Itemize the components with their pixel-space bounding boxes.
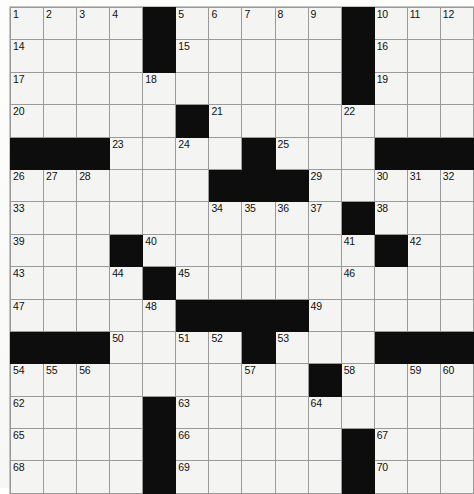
crossword-cell[interactable] bbox=[77, 299, 110, 331]
crossword-cell[interactable] bbox=[242, 267, 275, 299]
crossword-cell[interactable] bbox=[110, 396, 143, 428]
crossword-cell[interactable] bbox=[242, 396, 275, 428]
crossword-cell[interactable] bbox=[308, 72, 341, 104]
crossword-cell[interactable] bbox=[44, 72, 77, 104]
crossword-cell[interactable] bbox=[110, 461, 143, 493]
crossword-cell[interactable] bbox=[341, 137, 374, 169]
crossword-cell[interactable] bbox=[44, 429, 77, 461]
crossword-cell[interactable] bbox=[308, 234, 341, 266]
crossword-cell[interactable] bbox=[440, 299, 473, 331]
crossword-cell[interactable] bbox=[44, 202, 77, 234]
crossword-cell[interactable] bbox=[341, 299, 374, 331]
crossword-cell[interactable]: 52 bbox=[209, 331, 242, 363]
crossword-cell[interactable]: 48 bbox=[143, 299, 176, 331]
crossword-cell[interactable] bbox=[407, 202, 440, 234]
crossword-cell[interactable]: 9 bbox=[308, 8, 341, 40]
crossword-cell[interactable] bbox=[308, 267, 341, 299]
crossword-cell[interactable] bbox=[77, 105, 110, 137]
crossword-cell[interactable]: 37 bbox=[308, 202, 341, 234]
crossword-cell[interactable]: 50 bbox=[110, 331, 143, 363]
crossword-cell[interactable] bbox=[275, 364, 308, 396]
crossword-cell[interactable] bbox=[209, 461, 242, 493]
crossword-cell[interactable] bbox=[275, 461, 308, 493]
crossword-cell[interactable]: 27 bbox=[44, 169, 77, 201]
crossword-cell[interactable]: 65 bbox=[11, 429, 44, 461]
crossword-cell[interactable]: 30 bbox=[374, 169, 407, 201]
crossword-cell[interactable] bbox=[143, 202, 176, 234]
crossword-cell[interactable] bbox=[341, 331, 374, 363]
crossword-cell[interactable] bbox=[275, 105, 308, 137]
crossword-cell[interactable] bbox=[242, 234, 275, 266]
crossword-cell[interactable] bbox=[209, 234, 242, 266]
crossword-cell[interactable] bbox=[176, 234, 209, 266]
crossword-cell[interactable] bbox=[275, 396, 308, 428]
crossword-cell[interactable] bbox=[374, 299, 407, 331]
crossword-cell[interactable]: 31 bbox=[407, 169, 440, 201]
crossword-cell[interactable]: 14 bbox=[11, 40, 44, 72]
crossword-cell[interactable]: 58 bbox=[341, 364, 374, 396]
crossword-cell[interactable]: 67 bbox=[374, 429, 407, 461]
crossword-cell[interactable] bbox=[143, 137, 176, 169]
crossword-cell[interactable] bbox=[44, 299, 77, 331]
crossword-cell[interactable]: 3 bbox=[77, 8, 110, 40]
crossword-cell[interactable]: 23 bbox=[110, 137, 143, 169]
crossword-cell[interactable] bbox=[44, 267, 77, 299]
crossword-cell[interactable] bbox=[143, 105, 176, 137]
crossword-cell[interactable] bbox=[440, 396, 473, 428]
crossword-cell[interactable]: 2 bbox=[44, 8, 77, 40]
crossword-cell[interactable] bbox=[440, 40, 473, 72]
crossword-cell[interactable]: 62 bbox=[11, 396, 44, 428]
crossword-cell[interactable] bbox=[44, 234, 77, 266]
crossword-cell[interactable]: 5 bbox=[176, 8, 209, 40]
crossword-cell[interactable]: 36 bbox=[275, 202, 308, 234]
crossword-cell[interactable]: 7 bbox=[242, 8, 275, 40]
crossword-cell[interactable] bbox=[77, 40, 110, 72]
crossword-cell[interactable]: 41 bbox=[341, 234, 374, 266]
crossword-cell[interactable]: 17 bbox=[11, 72, 44, 104]
crossword-cell[interactable]: 29 bbox=[308, 169, 341, 201]
crossword-cell[interactable]: 1 bbox=[11, 8, 44, 40]
crossword-cell[interactable] bbox=[209, 137, 242, 169]
crossword-cell[interactable] bbox=[209, 40, 242, 72]
crossword-grid[interactable]: 1234567891011121415161718192021222324252… bbox=[10, 7, 474, 494]
crossword-cell[interactable]: 40 bbox=[143, 234, 176, 266]
crossword-cell[interactable]: 53 bbox=[275, 331, 308, 363]
crossword-cell[interactable]: 63 bbox=[176, 396, 209, 428]
crossword-cell[interactable]: 38 bbox=[374, 202, 407, 234]
crossword-cell[interactable] bbox=[77, 267, 110, 299]
crossword-cell[interactable] bbox=[440, 105, 473, 137]
crossword-cell[interactable]: 60 bbox=[440, 364, 473, 396]
crossword-cell[interactable]: 12 bbox=[440, 8, 473, 40]
crossword-cell[interactable] bbox=[110, 105, 143, 137]
crossword-cell[interactable] bbox=[176, 364, 209, 396]
crossword-cell[interactable] bbox=[44, 40, 77, 72]
crossword-cell[interactable] bbox=[242, 72, 275, 104]
crossword-cell[interactable]: 57 bbox=[242, 364, 275, 396]
crossword-cell[interactable] bbox=[242, 105, 275, 137]
crossword-cell[interactable] bbox=[209, 429, 242, 461]
crossword-cell[interactable]: 59 bbox=[407, 364, 440, 396]
crossword-cell[interactable] bbox=[176, 72, 209, 104]
crossword-cell[interactable] bbox=[275, 267, 308, 299]
crossword-cell[interactable]: 34 bbox=[209, 202, 242, 234]
crossword-cell[interactable] bbox=[407, 40, 440, 72]
crossword-cell[interactable] bbox=[341, 396, 374, 428]
crossword-cell[interactable]: 69 bbox=[176, 461, 209, 493]
crossword-cell[interactable]: 24 bbox=[176, 137, 209, 169]
crossword-cell[interactable]: 54 bbox=[11, 364, 44, 396]
crossword-cell[interactable] bbox=[110, 299, 143, 331]
crossword-cell[interactable] bbox=[308, 331, 341, 363]
crossword-cell[interactable]: 70 bbox=[374, 461, 407, 493]
crossword-cell[interactable]: 64 bbox=[308, 396, 341, 428]
crossword-cell[interactable] bbox=[440, 202, 473, 234]
crossword-cell[interactable]: 45 bbox=[176, 267, 209, 299]
crossword-cell[interactable] bbox=[275, 234, 308, 266]
crossword-cell[interactable]: 51 bbox=[176, 331, 209, 363]
crossword-cell[interactable]: 42 bbox=[407, 234, 440, 266]
crossword-cell[interactable] bbox=[110, 169, 143, 201]
crossword-cell[interactable] bbox=[209, 364, 242, 396]
crossword-cell[interactable] bbox=[209, 396, 242, 428]
crossword-cell[interactable]: 47 bbox=[11, 299, 44, 331]
crossword-cell[interactable] bbox=[77, 234, 110, 266]
crossword-cell[interactable] bbox=[209, 267, 242, 299]
